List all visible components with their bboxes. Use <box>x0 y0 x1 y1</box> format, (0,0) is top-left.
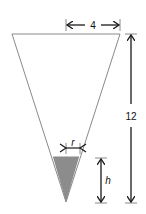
cone-diagram: 4 12 r h <box>0 0 146 214</box>
water-height-label: h <box>105 175 111 186</box>
top-radius-label: 4 <box>90 20 96 31</box>
height-dimension: 12 <box>125 34 137 203</box>
top-radius-dimension: 4 <box>66 19 120 31</box>
height-label: 12 <box>125 111 137 122</box>
water-radius-label: r <box>71 137 75 148</box>
water-radius-arrow-left <box>60 144 66 152</box>
water-fill <box>53 157 79 202</box>
water-height-dimension: h <box>95 158 111 203</box>
